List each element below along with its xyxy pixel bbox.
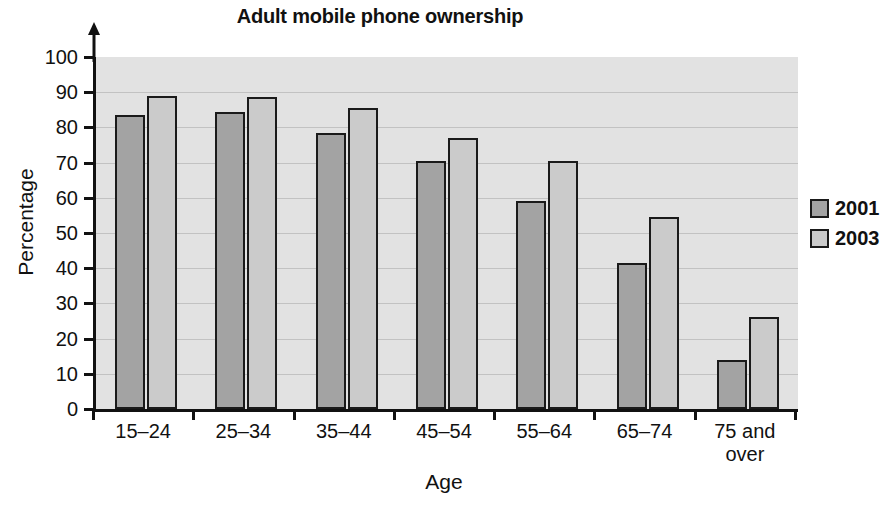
gridline — [96, 268, 798, 269]
x-axis-category-label: 55–64 — [494, 420, 594, 443]
bar-2001-75-and-over — [717, 360, 747, 409]
x-axis-tick-mark — [393, 409, 396, 420]
x-axis-category-label: 25–34 — [193, 420, 293, 443]
x-axis-tick-mark — [293, 409, 296, 420]
gridline — [96, 303, 798, 304]
y-axis-tick-mark — [84, 197, 93, 200]
bar-2003-35–44 — [348, 108, 378, 409]
bar-2003-55–64 — [548, 161, 578, 409]
bar-2003-65–74 — [649, 217, 679, 409]
x-axis-tick-mark — [694, 409, 697, 420]
x-axis-tick-mark — [493, 409, 496, 420]
x-axis-tick-mark — [192, 409, 195, 420]
y-axis-tick-label: 0 — [22, 399, 78, 419]
legend-item-2001[interactable]: 2001 — [810, 193, 891, 223]
gridline — [96, 163, 798, 164]
legend-swatch-icon — [810, 199, 829, 218]
y-axis-tick-label: 90 — [22, 82, 78, 102]
bar-2003-15–24 — [147, 96, 177, 409]
bar-2001-35–44 — [316, 133, 346, 409]
gridline — [96, 233, 798, 234]
gridline — [96, 339, 798, 340]
y-axis-tick-mark — [84, 126, 93, 129]
bar-2001-55–64 — [516, 201, 546, 409]
legend-label: 2001 — [835, 198, 880, 218]
legend: 20012003 — [810, 193, 891, 253]
y-axis-tick-mark — [84, 267, 93, 270]
legend-item-2003[interactable]: 2003 — [810, 223, 891, 253]
gridline — [96, 374, 798, 375]
y-axis-tick-mark — [84, 338, 93, 341]
y-axis-tick-mark — [84, 302, 93, 305]
x-axis-tick-mark — [593, 409, 596, 420]
y-axis-tick-mark — [84, 91, 93, 94]
gridline — [96, 92, 798, 93]
y-axis-tick-mark — [84, 162, 93, 165]
x-axis-category-label: 35–44 — [294, 420, 394, 443]
bar-2003-45–54 — [448, 138, 478, 409]
y-axis-tick-mark — [84, 232, 93, 235]
bar-chart: Adult mobile phone ownership 10090807060… — [0, 0, 891, 505]
y-axis-tick-label: 10 — [22, 364, 78, 384]
bar-2001-45–54 — [416, 161, 446, 409]
x-axis-tick-mark — [92, 409, 95, 420]
y-axis-title: Percentage — [14, 102, 38, 342]
bar-2003-25–34 — [247, 97, 277, 409]
y-axis-tick-mark — [84, 373, 93, 376]
y-axis-tick-label: 100 — [22, 47, 78, 67]
x-axis-category-label: 65–74 — [594, 420, 694, 443]
bar-2001-25–34 — [215, 112, 245, 409]
x-axis-tick-mark — [794, 409, 797, 420]
chart-title: Adult mobile phone ownership — [0, 5, 760, 28]
plot-area — [93, 57, 798, 412]
x-axis-category-label: 75 and over — [695, 420, 795, 466]
legend-label: 2003 — [835, 228, 880, 248]
x-axis-title: Age — [93, 470, 795, 494]
legend-swatch-icon — [810, 229, 829, 248]
gridline — [96, 198, 798, 199]
x-axis-category-label: 45–54 — [394, 420, 494, 443]
bar-2003-75-and-over — [749, 317, 779, 409]
gridline — [96, 127, 798, 128]
bar-2001-15–24 — [115, 115, 145, 409]
x-axis-category-label: 15–24 — [93, 420, 193, 443]
y-axis-tick-mark — [84, 56, 93, 59]
bar-2001-65–74 — [617, 263, 647, 409]
